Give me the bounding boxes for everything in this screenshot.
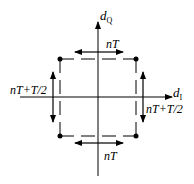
di-label: dI — [173, 85, 183, 102]
left-time-label: nT+T/2 — [10, 83, 47, 97]
corner-dot-tl — [58, 57, 63, 62]
corner-dot-tr — [134, 57, 139, 62]
top-time-label: nT — [106, 37, 120, 51]
corner-dot-bl — [58, 134, 63, 139]
corner-dot-br — [134, 134, 139, 139]
diagram-canvas: dQ dI nT nT nT+T/2 nT+T/2 — [0, 0, 194, 184]
bottom-time-label: nT — [104, 149, 118, 163]
dq-label: dQ — [100, 8, 113, 25]
right-time-label: nT+T/2 — [146, 102, 183, 116]
